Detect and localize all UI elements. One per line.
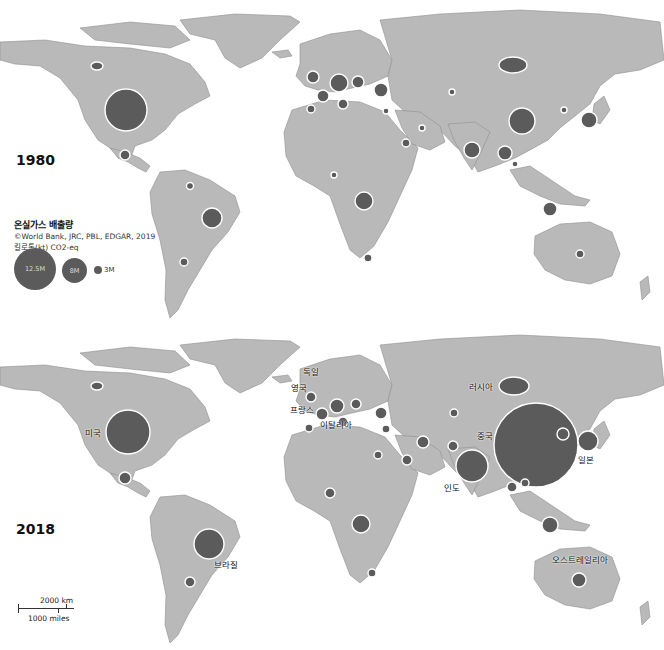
- bubble-france: [317, 90, 329, 102]
- bubble-brazil: [202, 208, 222, 228]
- bubble-russia: [499, 57, 527, 73]
- bubble-russia: [499, 377, 529, 395]
- world-map-2018: [0, 325, 664, 650]
- scale-bar: 2000 km 1000 miles: [14, 598, 84, 622]
- bubble-germany: [330, 74, 348, 92]
- bubble-thailand: [507, 482, 517, 492]
- bubble-saudi: [402, 139, 410, 147]
- bubble-southafrica: [364, 254, 372, 262]
- legend-circle-small: [94, 266, 102, 274]
- bubble-usa: [105, 89, 147, 131]
- legend-source: ©World Bank, JRC, PBL, EDGAR, 2019: [14, 231, 174, 242]
- label-france: 프랑스: [290, 403, 314, 415]
- bubble-egypt: [374, 451, 382, 459]
- legend-circle-medium: 8M: [62, 258, 87, 283]
- bubble-myanmar: [498, 146, 512, 160]
- bubble-uk: [306, 392, 316, 402]
- scale-tick-mi: [58, 608, 59, 613]
- bubble-nigeria: [325, 488, 335, 498]
- bubble-iran: [419, 125, 425, 131]
- bubble-korea: [561, 107, 567, 113]
- bubble-mexico: [119, 472, 131, 484]
- bubble-india: [464, 142, 480, 158]
- world-map-1980: [0, 0, 664, 325]
- bubble-spain: [305, 424, 313, 432]
- bubble-brazil: [194, 529, 224, 559]
- bubble-italy: [338, 99, 348, 109]
- bubble-korea: [557, 428, 569, 440]
- bubble-indonesia: [542, 517, 558, 533]
- legend-circle-large: 12.5M: [14, 248, 56, 290]
- scale-km-label: 2000 km: [40, 596, 73, 605]
- bubble-pakistan: [448, 441, 458, 451]
- bubble-china: [494, 403, 578, 487]
- label-uk: 영국: [291, 381, 307, 393]
- bubble-poland: [351, 399, 361, 409]
- bubble-thailand: [512, 161, 518, 167]
- bubble-kazakhstan: [450, 409, 458, 417]
- label-india: 인도: [444, 481, 460, 493]
- bubble-japan: [581, 112, 597, 128]
- year-label-2018: 2018: [16, 521, 55, 537]
- bubble-indonesia: [543, 202, 557, 216]
- label-australia: 오스트레일리아: [552, 553, 608, 565]
- legend-title: 온실가스 배출량: [14, 218, 174, 231]
- label-germany: 독일: [303, 365, 319, 377]
- year-label-1980: 1980: [16, 152, 55, 168]
- label-japan: 일본: [578, 453, 594, 465]
- bubble-kazakhstan: [449, 89, 455, 95]
- scale-tick-start: [18, 604, 19, 613]
- bubble-germany: [330, 399, 344, 413]
- bubble-argentina: [185, 577, 195, 587]
- label-usa: 미국: [85, 426, 101, 438]
- bubble-iran: [417, 436, 429, 448]
- bubble-turkey: [383, 108, 389, 114]
- label-china: 중국: [477, 429, 493, 441]
- bubble-saudi: [402, 455, 412, 465]
- bubble-drc: [352, 515, 370, 533]
- bubble-ukraine: [374, 83, 388, 97]
- legend: 온실가스 배출량 ©World Bank, JRC, PBL, EDGAR, 2…: [14, 218, 174, 253]
- bubble-southafrica: [368, 569, 376, 577]
- label-russia: 러시아: [469, 380, 493, 392]
- bubble-mexico: [120, 150, 130, 160]
- bubble-nigeria: [331, 172, 337, 178]
- bubble-australia: [576, 250, 584, 258]
- bubble-venezuela: [187, 183, 194, 190]
- bubble-turkey: [382, 425, 390, 433]
- bubble-australia: [572, 573, 586, 587]
- bubble-usa: [106, 410, 150, 454]
- map-panel-1980: 1980 온실가스 배출량 ©World Bank, JRC, PBL, EDG…: [0, 0, 664, 325]
- label-italy: 이탈리아: [320, 418, 352, 430]
- bubble-poland: [352, 76, 364, 88]
- bubble-canada: [91, 62, 103, 70]
- bubble-uk: [307, 71, 319, 83]
- bubble-china: [509, 108, 535, 134]
- scale-miles-label: 1000 miles: [28, 614, 69, 623]
- bubble-spain: [307, 105, 315, 113]
- bubble-ukraine: [375, 407, 387, 419]
- bubble-argentina: [180, 258, 188, 266]
- label-brazil: 브라질: [214, 558, 238, 570]
- map-panel-2018: 2018 미국 브라질 독일 영국 프랑스 이탈리아 러시아 중국 인도 일본 …: [0, 325, 664, 650]
- bubble-canada: [91, 382, 103, 390]
- bubble-india: [456, 450, 488, 482]
- legend-label-small: 3M: [104, 265, 115, 276]
- bubble-japan: [578, 431, 598, 451]
- bubble-vietnam: [521, 479, 529, 487]
- bubble-drc: [355, 192, 373, 210]
